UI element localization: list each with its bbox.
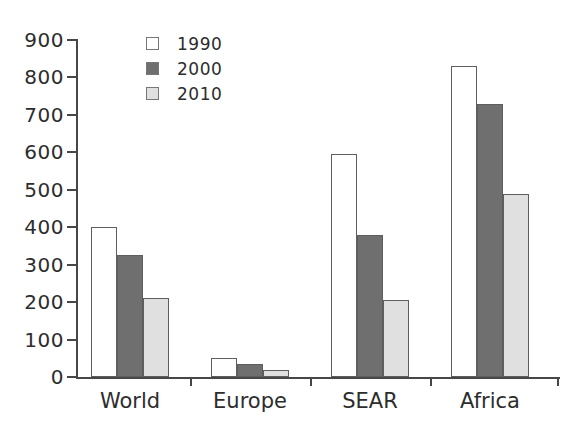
- y-tick-0: [67, 376, 77, 378]
- bar-europe-2010: [263, 370, 289, 377]
- x-tick-4: [557, 377, 559, 386]
- y-tick-200: [67, 301, 77, 303]
- y-tick-800: [67, 76, 77, 78]
- x-tick-1: [190, 377, 192, 386]
- x-tick-2: [310, 377, 312, 386]
- x-category-label-sear: SEAR: [313, 389, 427, 413]
- bar-world-1990: [91, 227, 117, 377]
- y-tick-label-400: 400: [16, 215, 64, 239]
- legend-item-2010: 2010: [146, 81, 222, 106]
- bar-sear-1990: [331, 154, 357, 377]
- y-axis-line: [76, 39, 78, 378]
- y-tick-label-600: 600: [16, 140, 64, 164]
- y-tick-label-900: 900: [16, 28, 64, 52]
- x-tick-3: [430, 377, 432, 386]
- y-tick-label-100: 100: [16, 328, 64, 352]
- y-tick-label-200: 200: [16, 290, 64, 314]
- bar-africa-1990: [451, 66, 477, 377]
- x-category-label-europe: Europe: [193, 389, 307, 413]
- bar-sear-2010: [383, 300, 409, 377]
- legend-item-1990: 1990: [146, 31, 222, 56]
- bar-africa-2000: [477, 104, 503, 377]
- bar-chart-figure: 1990 2000 2010 0100200300400500600700800…: [0, 0, 572, 447]
- y-tick-label-800: 800: [16, 65, 64, 89]
- y-tick-700: [67, 114, 77, 116]
- x-axis-line: [76, 377, 560, 379]
- bar-world-2000: [117, 255, 143, 377]
- y-tick-label-0: 0: [16, 365, 64, 389]
- x-category-label-world: World: [73, 389, 187, 413]
- y-tick-400: [67, 226, 77, 228]
- x-category-label-africa: Africa: [433, 389, 547, 413]
- chart-legend: 1990 2000 2010: [146, 31, 222, 106]
- bar-sear-2000: [357, 235, 383, 377]
- bar-africa-2010: [503, 194, 529, 377]
- legend-swatch-2000: [146, 62, 159, 75]
- bar-europe-1990: [211, 358, 237, 377]
- bar-world-2010: [143, 298, 169, 377]
- y-tick-label-500: 500: [16, 178, 64, 202]
- y-tick-label-700: 700: [16, 103, 64, 127]
- legend-item-2000: 2000: [146, 56, 222, 81]
- legend-swatch-2010: [146, 87, 159, 100]
- legend-label-2010: 2010: [177, 84, 222, 104]
- legend-label-1990: 1990: [177, 34, 222, 54]
- bar-europe-2000: [237, 364, 263, 377]
- y-tick-600: [67, 151, 77, 153]
- legend-swatch-1990: [146, 37, 159, 50]
- y-tick-900: [67, 39, 77, 41]
- y-tick-300: [67, 264, 77, 266]
- legend-label-2000: 2000: [177, 59, 222, 79]
- y-tick-100: [67, 339, 77, 341]
- y-tick-label-300: 300: [16, 253, 64, 277]
- y-tick-500: [67, 189, 77, 191]
